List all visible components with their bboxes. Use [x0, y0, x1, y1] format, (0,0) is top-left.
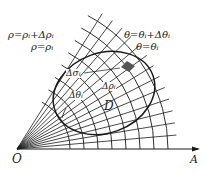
radial-line: [17, 99, 169, 149]
label-region-d: D: [104, 100, 114, 112]
label-theta-inner: θ=θᵢ: [136, 42, 158, 52]
label-axis-a: A: [190, 154, 198, 165]
label-delta-rho: Δρᵢ: [102, 82, 116, 91]
polar-grid-diagram: [0, 0, 206, 182]
label-delta-sigma: Δσᵢ: [66, 69, 80, 78]
label-rho-inner: ρ=ρᵢ: [31, 42, 53, 52]
label-delta-theta: Δθᵢ: [69, 91, 83, 100]
delta-sigma-pointer: [84, 68, 120, 73]
radial-line: [17, 123, 175, 149]
label-theta-outer: θ=θᵢ+Δθᵢ: [124, 30, 170, 40]
label-origin-o: O: [12, 153, 22, 165]
region-d-boundary: [41, 38, 166, 149]
label-rho-outer: ρ=ρᵢ+Δρᵢ: [8, 30, 54, 40]
axis-arrow-icon: [192, 147, 200, 152]
